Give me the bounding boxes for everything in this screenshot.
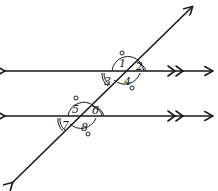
angle-label-6: 6 (92, 104, 99, 117)
angle-label-8: 8 (81, 121, 88, 134)
angle-diagram: 1 2 3 4 5 6 7 8 (0, 0, 218, 191)
angle-label-5: 5 (72, 103, 79, 116)
bottom-parallel-line (4, 111, 212, 121)
angle-label-1: 1 (119, 57, 126, 70)
angle-label-4: 4 (123, 75, 131, 88)
angle-label-7: 7 (62, 119, 69, 132)
angle-label-2: 2 (135, 60, 143, 73)
angle-label-3: 3 (104, 75, 111, 88)
transversal-line (12, 7, 192, 183)
